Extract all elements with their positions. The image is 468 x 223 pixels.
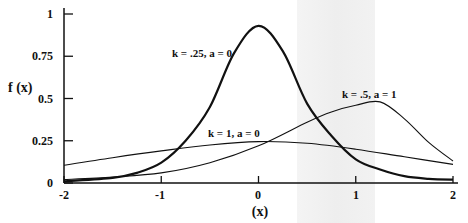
x-axis-title: (x) [252,204,269,220]
line-chart: 0 0.25 0.5 0.75 1 -2 -1 0 1 2 f (x) (x) … [0,0,468,223]
x-tick-label: -2 [59,188,69,202]
x-tick-label: -1 [155,188,165,202]
curve-k05-a1 [64,101,453,179]
curve-label-k025-a0: k = .25, a = 0 [172,47,232,59]
y-ticks [64,14,73,183]
y-tick-label: 0.5 [38,92,53,106]
x-tick-label: 0 [255,188,261,202]
y-axis-title: f (x) [8,80,33,96]
curve-label-k05-a1: k = .5, a = 1 [342,88,396,100]
curve-k025-a0 [64,26,453,182]
x-tick-label: 1 [353,188,359,202]
y-tick-label: 0.75 [32,49,53,63]
x-tick-label: 2 [450,188,456,202]
y-tick-label: 1 [47,7,53,21]
y-tick-label: 0 [47,176,53,190]
y-tick-label: 0.25 [32,134,53,148]
curve-k1-a0 [64,142,453,166]
curve-label-k1-a0: k = 1, a = 0 [208,127,260,139]
